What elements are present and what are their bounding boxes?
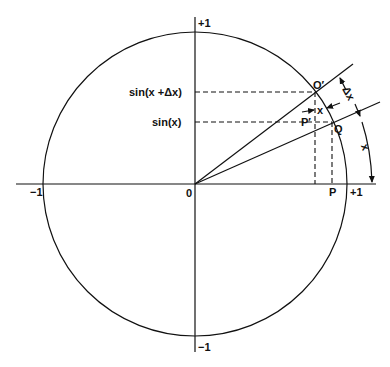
x-neg-label: −1	[30, 186, 43, 198]
x-pos-label: +1	[350, 186, 363, 198]
arc-x-label: x	[359, 142, 373, 153]
y-pos-label: +1	[198, 17, 211, 29]
point-q-prime-label: O′	[313, 79, 325, 91]
delta-x-label: Δx	[340, 84, 358, 103]
sin-x-label: sin(x)	[152, 116, 182, 128]
point-q-label: Q	[334, 123, 343, 135]
delta-x-arrow-bottom	[355, 104, 360, 116]
unit-circle-diagram: +1 −1 −1 +1 0 sin(x +Δx) sin(x) O′ Q P′ …	[0, 0, 390, 367]
origin-label: 0	[186, 187, 192, 199]
point-p-prime-label: P′	[301, 116, 311, 128]
arc-x-dimension	[362, 122, 372, 182]
sin-x-plus-dx-label: sin(x +Δx)	[129, 86, 182, 98]
small-angle-label: x	[317, 104, 324, 116]
small-angle-arrow-right	[327, 103, 340, 108]
point-p-label: P	[329, 186, 336, 198]
small-angle-arrow-left	[302, 110, 314, 112]
y-neg-label: −1	[198, 341, 211, 353]
